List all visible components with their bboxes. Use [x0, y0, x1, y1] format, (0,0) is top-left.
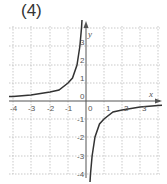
tick-labels: -4 -3 -2 -1 0 1 2 3 0 3 2 1 -1 -2 -3 -4 … [10, 29, 153, 179]
grid [9, 26, 160, 174]
svg-text:-2: -2 [77, 133, 85, 142]
svg-text:-1: -1 [77, 115, 85, 124]
svg-text:1: 1 [106, 104, 111, 113]
y-axis-arrow-icon [84, 21, 89, 28]
svg-text:3: 3 [142, 104, 147, 113]
svg-text:-3: -3 [28, 104, 36, 113]
svg-text:3: 3 [80, 38, 85, 47]
svg-text:y: y [87, 29, 92, 39]
curve-branch-right [90, 105, 162, 182]
svg-text:-4: -4 [77, 170, 85, 179]
axes [9, 21, 162, 178]
chart-plot: -4 -3 -2 -1 0 1 2 3 0 3 2 1 -1 -2 -3 -4 … [0, 0, 167, 184]
svg-text:-1: -1 [65, 104, 73, 113]
svg-text:-3: -3 [77, 152, 85, 161]
svg-text:2: 2 [124, 104, 129, 113]
svg-text:0: 0 [88, 104, 93, 113]
svg-text:2: 2 [80, 56, 85, 65]
svg-text:x: x [148, 89, 153, 99]
svg-text:-4: -4 [10, 104, 18, 113]
curve-branch-left [9, 20, 82, 97]
x-axis-arrow-icon [155, 99, 162, 104]
svg-text:1: 1 [80, 74, 85, 83]
svg-text:0: 0 [80, 92, 85, 101]
svg-text:-2: -2 [47, 104, 55, 113]
